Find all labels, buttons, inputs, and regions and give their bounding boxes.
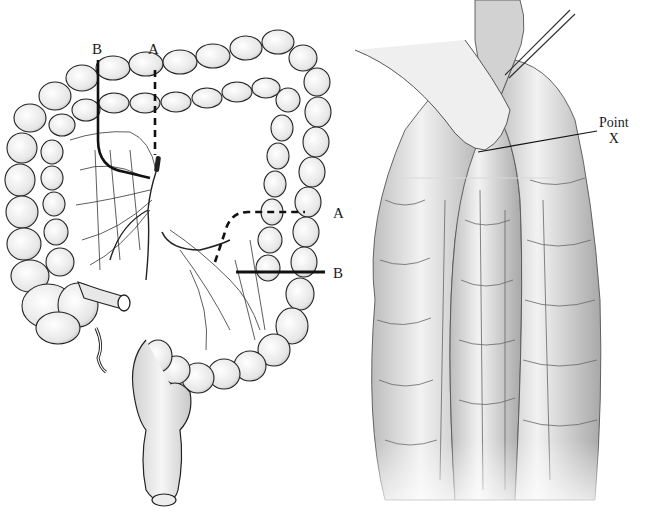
descending-colon: [256, 97, 331, 310]
label-b-right: B: [333, 266, 343, 281]
ascending-colon: [5, 133, 98, 344]
mesenteric-drawing: [345, 0, 645, 527]
colon-drawing: [0, 0, 345, 527]
point-x-label-line1: Point: [599, 115, 629, 131]
mesenteric-detail-panel: Point X: [345, 0, 645, 527]
point-x-label-line2: X: [599, 131, 629, 147]
sigmoid-colon: [144, 308, 308, 393]
label-a-right: A: [333, 206, 344, 221]
point-x-label: Point X: [599, 115, 629, 147]
label-a-top: A: [148, 42, 159, 57]
colon-illustration-panel: B A A B: [0, 0, 345, 527]
label-b-top: B: [92, 42, 102, 57]
